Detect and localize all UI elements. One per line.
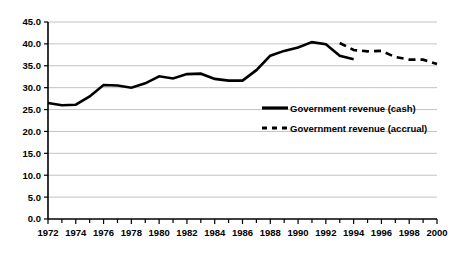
x-axis-tick-label: 1994: [343, 227, 365, 238]
x-axis-tick-label: 1974: [65, 227, 87, 238]
legend-label-cash: Government revenue (cash): [290, 103, 416, 114]
x-axis-tick-label: 1984: [204, 227, 226, 238]
y-axis-tick-label: 40.0: [23, 38, 42, 49]
y-axis-tick-label: 45.0: [23, 16, 42, 27]
y-axis-tick-label: 20.0: [23, 126, 42, 137]
x-axis-tick-label: 1992: [315, 227, 336, 238]
y-axis-tick-label: 0.0: [28, 213, 41, 224]
x-axis-tick-label: 1990: [287, 227, 308, 238]
y-axis-tick-label: 30.0: [23, 82, 42, 93]
x-axis-tick-label: 1972: [37, 227, 58, 238]
series-line-government-revenue-cash: [48, 42, 354, 105]
legend-label-accrual: Government revenue (accrual): [290, 123, 427, 134]
x-axis-tick-label: 1988: [260, 227, 281, 238]
line-chart: 45.040.035.030.025.020.015.010.05.00.0 1…: [0, 0, 457, 256]
y-axis-tick-label: 10.0: [23, 170, 42, 181]
x-axis-tick-label: 1980: [149, 227, 170, 238]
x-axis-tick-label: 2000: [426, 227, 447, 238]
y-axis-tick-label: 5.0: [28, 192, 41, 203]
y-axis-tick-label: 15.0: [23, 148, 42, 159]
chart-container: 45.040.035.030.025.020.015.010.05.00.0 1…: [0, 0, 457, 256]
x-axis-tick-labels: 1972197419761978198019821984198619881990…: [37, 227, 447, 238]
x-axis-tick-label: 1986: [232, 227, 253, 238]
chart-legend: Government revenue (cash) Government rev…: [262, 103, 427, 134]
series-line-government-revenue-accrual: [340, 43, 437, 64]
legend-item-cash: Government revenue (cash): [262, 103, 416, 114]
x-axis-tick-label: 1996: [371, 227, 392, 238]
y-axis-tick-label: 25.0: [23, 104, 42, 115]
legend-item-accrual: Government revenue (accrual): [262, 123, 427, 134]
x-axis-tick-label: 1976: [93, 227, 114, 238]
y-axis-tick-labels: 45.040.035.030.025.020.015.010.05.00.0: [23, 16, 42, 224]
x-axis-tick-label: 1978: [121, 227, 142, 238]
x-axis-tick-label: 1998: [399, 227, 420, 238]
y-axis-tick-label: 35.0: [23, 60, 42, 71]
x-axis-tick-label: 1982: [176, 227, 197, 238]
